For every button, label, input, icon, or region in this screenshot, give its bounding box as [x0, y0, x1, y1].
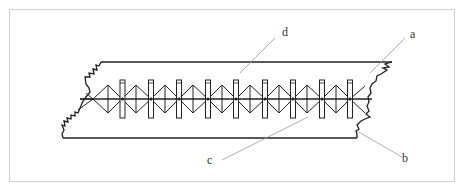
diagram-canvas: d a c b [0, 0, 461, 192]
label-a: a [410, 27, 416, 41]
slab-outline [62, 62, 392, 138]
leader-d [240, 38, 275, 73]
left-break-line [62, 62, 101, 138]
label-d: d [282, 25, 288, 39]
label-c: c [207, 153, 212, 167]
leader-b [357, 131, 402, 157]
label-b: b [402, 151, 408, 165]
right-break-line [356, 62, 392, 138]
